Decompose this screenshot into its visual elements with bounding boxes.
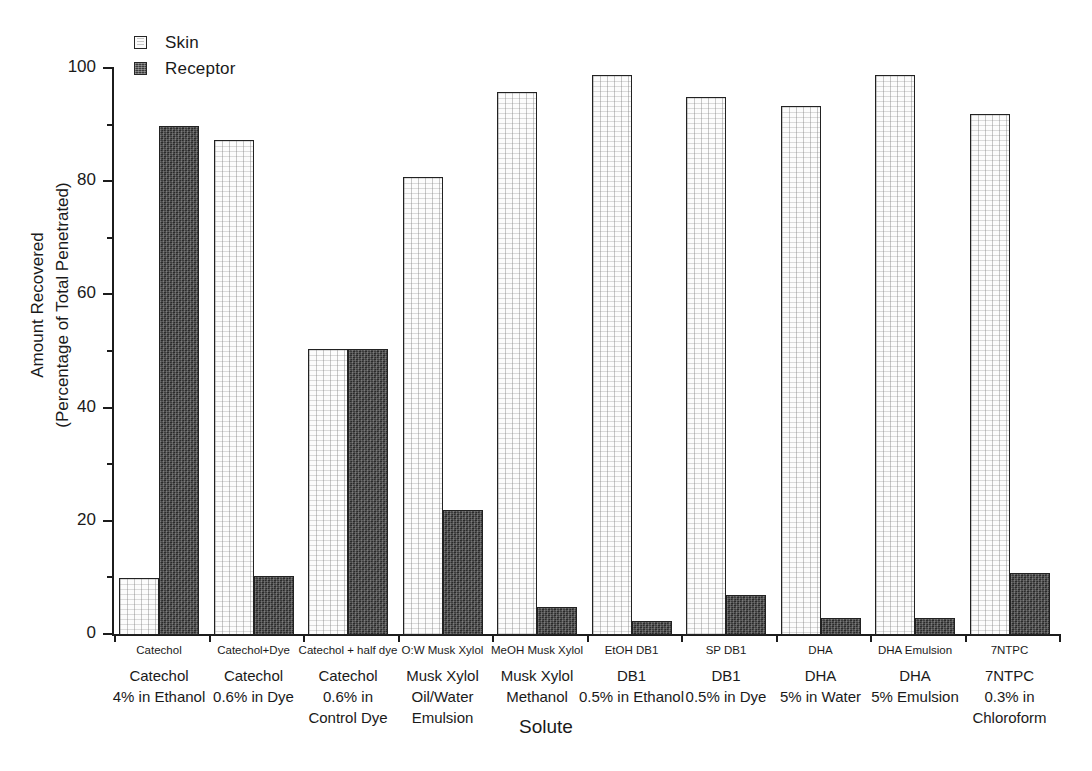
bar-texture [687, 98, 725, 634]
y-tick-label: 80 [52, 170, 96, 190]
bar-texture [593, 76, 631, 634]
bar-receptor [726, 595, 766, 635]
bar-texture [538, 608, 576, 634]
bar-skin [497, 92, 537, 635]
bar-skin [308, 349, 348, 635]
bar-texture [971, 115, 1009, 634]
x-tick [870, 634, 872, 642]
bar-texture [727, 596, 765, 634]
bar-texture [1011, 574, 1049, 634]
bar-skin [592, 75, 632, 635]
x-tick [398, 634, 400, 642]
bar-receptor [632, 621, 672, 635]
bar-texture [498, 93, 536, 634]
bar-texture [444, 511, 482, 634]
x-tick [114, 634, 116, 642]
y-tick-label: 0 [52, 623, 96, 643]
bar-skin [119, 578, 159, 635]
bar-receptor [348, 349, 388, 635]
bar-skin [970, 114, 1010, 635]
bar-texture [822, 619, 860, 634]
category-description-line: 7NTPC [950, 665, 1070, 686]
y-tick-label: 100 [52, 57, 96, 77]
legend-label-skin: Skin [165, 33, 199, 53]
bar-receptor [821, 618, 861, 635]
bar-texture [255, 577, 293, 634]
bar-receptor [537, 607, 577, 635]
bar-texture [633, 622, 671, 634]
y-tick-label: 40 [52, 397, 96, 417]
legend-item-skin: Skin [134, 32, 236, 53]
plot-area [112, 68, 1060, 635]
bar-texture [160, 127, 198, 634]
x-tick [303, 634, 305, 642]
y-axis-title-line1: Amount Recovered [25, 135, 50, 475]
y-tick-label: 60 [52, 283, 96, 303]
bar-receptor [443, 510, 483, 635]
x-tick [209, 634, 211, 642]
bar-texture [916, 619, 954, 634]
category-short-label: 7NTPC [950, 643, 1070, 657]
bar-texture [349, 350, 387, 634]
y-tick-label: 20 [52, 510, 96, 530]
bar-skin [403, 177, 443, 635]
bar-texture [404, 178, 442, 634]
bar-receptor [1010, 573, 1050, 635]
x-tick [492, 634, 494, 642]
skin-swatch-icon [134, 36, 147, 49]
x-tick [1059, 634, 1061, 642]
bar-texture [782, 107, 820, 634]
bar-texture [215, 141, 253, 634]
bar-skin [875, 75, 915, 635]
chart-figure: Skin Receptor Amount Recovered (Percenta… [0, 0, 1092, 771]
bar-receptor [915, 618, 955, 635]
bar-texture [309, 350, 347, 634]
bar-receptor [254, 576, 294, 635]
bar-receptor [159, 126, 199, 635]
bar-skin [781, 106, 821, 635]
x-axis-title: Solute [0, 716, 1092, 738]
bar-texture [876, 76, 914, 634]
x-tick [587, 634, 589, 642]
bar-skin [214, 140, 254, 635]
x-tick [776, 634, 778, 642]
bar-skin [686, 97, 726, 635]
x-tick [965, 634, 967, 642]
bar-texture [120, 579, 158, 634]
category-description-line: 0.3% in [950, 686, 1070, 707]
x-tick [681, 634, 683, 642]
